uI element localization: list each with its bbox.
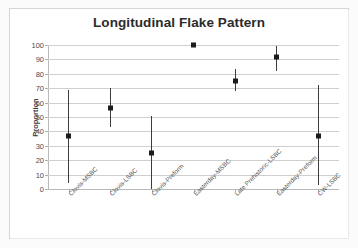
data-point-marker	[108, 106, 113, 111]
data-point-marker	[233, 79, 238, 84]
gridline	[48, 88, 339, 89]
gridline	[48, 131, 339, 132]
data-point-marker	[66, 133, 71, 138]
chart-title: Longitudinal Flake Pattern	[10, 15, 348, 30]
y-axis-tick-label: 0	[40, 185, 44, 194]
y-axis-tick-label: 50	[36, 113, 44, 122]
gridline	[48, 160, 339, 161]
y-axis-tick-mark	[45, 45, 48, 46]
y-axis-tick-mark	[45, 74, 48, 75]
y-axis-tick-mark	[45, 103, 48, 104]
y-axis-tick-label: 70	[36, 84, 44, 93]
y-axis-tick-mark	[45, 117, 48, 118]
y-axis-tick-label: 80	[36, 69, 44, 78]
y-axis-tick-label: 90	[36, 55, 44, 64]
y-axis-tick-mark	[45, 88, 48, 89]
gridline	[48, 117, 339, 118]
y-axis-tick-label: 10	[36, 170, 44, 179]
data-point-marker	[191, 43, 196, 48]
y-axis-tick-mark	[45, 146, 48, 147]
y-axis-tick-label: 100	[31, 41, 44, 50]
chart-figure: Longitudinal Flake Pattern Proportion 01…	[0, 0, 358, 248]
y-axis-tick-label: 30	[36, 141, 44, 150]
y-axis-tick-mark	[45, 131, 48, 132]
data-point-marker	[149, 151, 154, 156]
gridline	[48, 59, 339, 60]
y-axis-tick-mark	[45, 59, 48, 60]
y-axis-tick-label: 20	[36, 156, 44, 165]
y-axis-tick-mark	[45, 160, 48, 161]
gridline	[48, 146, 339, 147]
data-point-marker	[274, 54, 279, 59]
gridline	[48, 103, 339, 104]
y-axis-tick-mark	[45, 175, 48, 176]
y-axis-tick-label: 40	[36, 127, 44, 136]
y-axis-tick-label: 60	[36, 98, 44, 107]
y-axis-tick-mark	[45, 189, 48, 190]
chart-frame: Longitudinal Flake Pattern Proportion 01…	[9, 8, 349, 239]
data-point-marker	[316, 133, 321, 138]
gridline	[48, 74, 339, 75]
